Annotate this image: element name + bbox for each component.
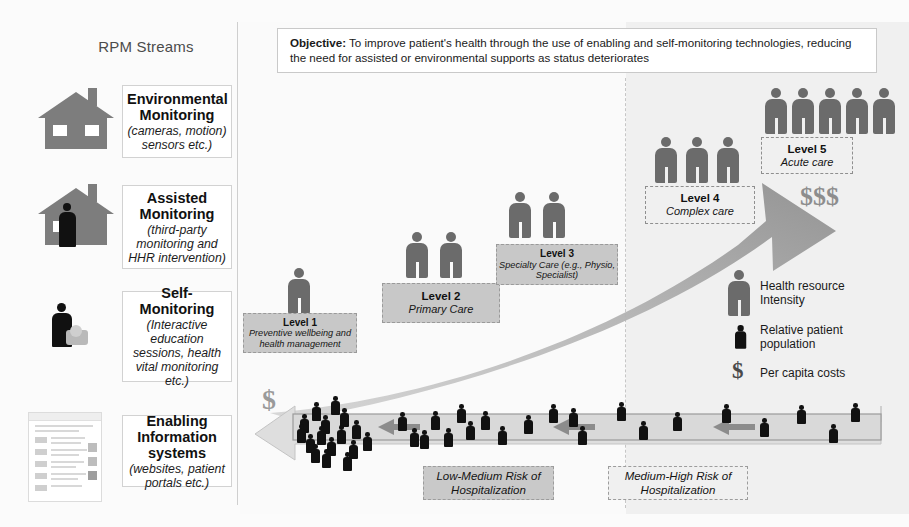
level-box-4[interactable]: Level 4 Complex care [645, 186, 755, 224]
level-population-figure [873, 88, 895, 134]
objective-text: To improve patient's health through the … [290, 36, 851, 64]
level-desc: Primary Care [383, 303, 499, 316]
level-desc: Specialty Care (e.g., Physio, Specialist… [497, 260, 617, 281]
stream-card-enabling-information-systems[interactable]: Enabling Information systems (websites, … [122, 415, 232, 487]
level-name: Level 5 [762, 143, 852, 156]
risk-band-medium-high[interactable]: Medium-High Risk of Hospitalization [608, 466, 748, 500]
legend-label-per-capita-costs: Per capita costs [760, 366, 890, 380]
level-population-figure [846, 88, 868, 134]
level-population-figure [765, 88, 787, 134]
legend-small-person-icon [735, 325, 746, 349]
device-screen-icon [70, 325, 82, 337]
legend-label-health-resource-intensity: Health resource Intensity [760, 279, 890, 307]
stream-card-assisted-monitoring[interactable]: Assisted Monitoring (third-party monitor… [122, 185, 232, 269]
objective-label: Objective: [290, 36, 346, 49]
stream-subtitle: (websites, patient portals etc.) [127, 462, 227, 490]
level-box-5[interactable]: Level 5 Acute care [761, 137, 853, 174]
legend-dollar-sign-icon: $ [732, 358, 744, 384]
risk-band-label: Low-Medium Risk of Hospitalization [424, 469, 553, 497]
objective-box: Objective: To improve patient's health t… [277, 28, 877, 73]
rpm-streams-heading: RPM Streams [56, 38, 236, 55]
stream-subtitle: (cameras, motion) sensors etc.) [127, 124, 227, 152]
level-box-1[interactable]: Level 1 Preventive wellbeing and health … [243, 313, 357, 353]
level-population-figure [792, 88, 814, 134]
legend-large-person-icon [728, 270, 750, 316]
risk-band-label: Medium-High Risk of Hospitalization [609, 469, 747, 497]
level-population-figure [686, 137, 708, 183]
level-population-figure [440, 232, 462, 278]
level-box-3[interactable]: Level 3 Specialty Care (e.g., Physio, Sp… [496, 244, 618, 285]
level-name: Level 2 [383, 290, 499, 303]
legend-label-relative-patient-population: Relative patient population [760, 323, 890, 351]
level-box-2[interactable]: Level 2 Primary Care [382, 283, 500, 323]
stream-title: Self-Monitoring [127, 285, 227, 317]
level-name: Level 3 [497, 248, 617, 260]
level-population-figure [655, 137, 677, 183]
person-inside-house-icon [59, 203, 76, 247]
stream-card-self-monitoring[interactable]: Self-Monitoring (Interactive education s… [122, 291, 232, 382]
level-population-figure [288, 268, 310, 314]
low-cost-marker: $ [262, 384, 276, 416]
house-icon [38, 92, 114, 150]
stream-title: Enabling Information systems [127, 413, 227, 461]
level-desc: Complex care [646, 205, 754, 218]
diagram-canvas: RPM Streams Environmental Monitoring (ca… [0, 0, 909, 527]
level-population-figure [543, 192, 565, 238]
level-name: Level 4 [646, 192, 754, 205]
stream-title: Assisted Monitoring [127, 190, 227, 222]
stream-subtitle: (Interactive education sessions, health … [127, 318, 227, 388]
level-population-figure [406, 232, 428, 278]
level-desc: Preventive wellbeing and health manageme… [244, 328, 356, 349]
level-population-figure [509, 192, 531, 238]
sidebar-divider [237, 22, 238, 505]
level-name: Level 1 [244, 317, 356, 329]
high-cost-marker: $$$ [800, 182, 839, 212]
level-population-figure [717, 137, 739, 183]
document-thumbnail-icon [28, 412, 102, 502]
level-population-figure [819, 88, 841, 134]
stream-card-environmental-monitoring[interactable]: Environmental Monitoring (cameras, motio… [122, 85, 232, 158]
house-with-person-icon [38, 188, 114, 246]
level-desc: Acute care [762, 156, 852, 169]
stream-subtitle: (third-party monitoring and HHR interven… [127, 223, 227, 265]
risk-band-low-medium[interactable]: Low-Medium Risk of Hospitalization [423, 466, 554, 500]
stream-title: Environmental Monitoring [127, 91, 227, 123]
